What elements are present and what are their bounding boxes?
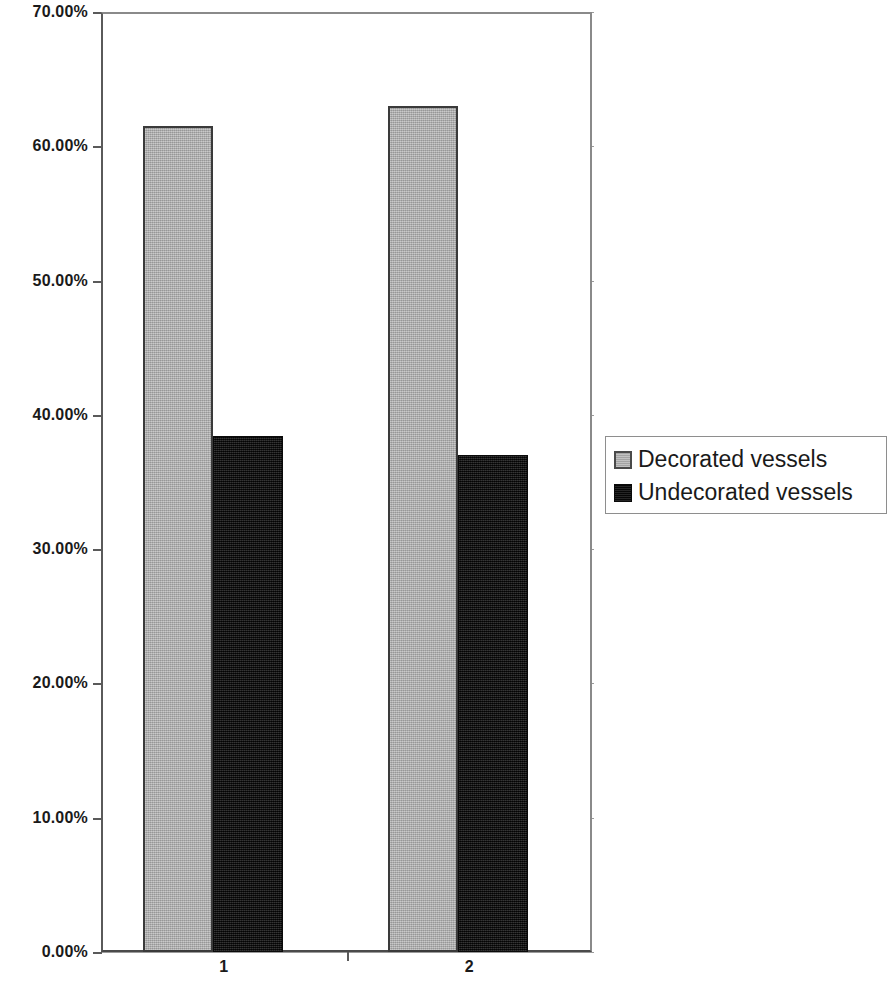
chart-legend: Decorated vessels Undecorated vessels (605, 436, 887, 514)
y-axis-tick-label: 30.00% (33, 540, 88, 558)
bar-1-undecorated-vessels (213, 436, 283, 952)
x-axis-tick-label: 2 (465, 958, 474, 976)
x-axis-tick (347, 952, 349, 961)
bar-2-undecorated-vessels (458, 455, 528, 952)
y-axis-tick-label: 0.00% (42, 943, 88, 961)
y-axis-tick (93, 952, 102, 954)
bar-2-decorated-vessels (388, 106, 458, 952)
legend-label-undecorated: Undecorated vessels (638, 481, 853, 504)
y-axis-tick-label: 70.00% (33, 3, 88, 21)
legend-swatch-undecorated-icon (614, 484, 632, 502)
bar-1-decorated-vessels (143, 126, 213, 952)
y-axis-tick-label: 20.00% (33, 674, 88, 692)
y-axis-tick-label: 60.00% (33, 137, 88, 155)
legend-label-decorated: Decorated vessels (638, 448, 827, 471)
x-axis-tick-label: 1 (219, 958, 228, 976)
y-axis-tick-label: 40.00% (33, 406, 88, 424)
y-axis-tick-label: 50.00% (33, 272, 88, 290)
legend-item-undecorated: Undecorated vessels (614, 476, 886, 509)
legend-swatch-decorated-icon (614, 451, 632, 469)
legend-item-decorated: Decorated vessels (614, 443, 886, 476)
y-axis-tick-label: 10.00% (33, 809, 88, 827)
